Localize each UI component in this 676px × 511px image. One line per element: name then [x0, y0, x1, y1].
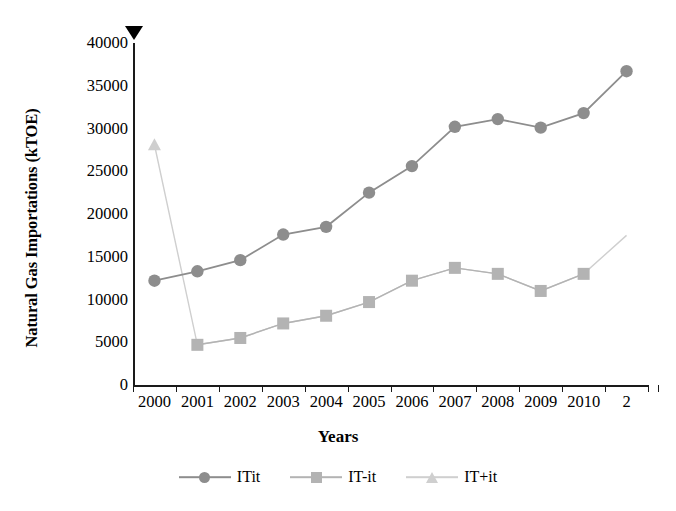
y-axis-tick-label: 35000 [50, 78, 128, 95]
data-point-marker [320, 310, 332, 322]
legend-item-ITit[interactable]: IT+it [406, 468, 497, 486]
x-axis-tick [391, 385, 392, 392]
x-axis-tick [133, 385, 134, 392]
data-point-marker [148, 138, 161, 150]
chart-figure: Natural Gas Importations (kTOE) 40000350… [0, 0, 676, 511]
x-axis-tick-label: 2 [601, 392, 653, 413]
data-point-marker [406, 160, 418, 172]
y-axis-tick-label: 40000 [50, 35, 128, 52]
triangle-marker-icon [426, 472, 438, 483]
data-point-marker [363, 186, 375, 198]
series-ITit [148, 65, 632, 287]
data-point-marker [535, 285, 547, 297]
down-triangle-marker [125, 26, 143, 40]
y-axis-tick-label: 25000 [50, 163, 128, 180]
series-line [197, 268, 583, 345]
series-line [154, 71, 626, 280]
x-axis-tick [305, 385, 306, 392]
legend-marker [290, 470, 342, 484]
legend-marker [179, 470, 231, 484]
data-point-marker [535, 121, 547, 133]
data-point-marker [191, 265, 203, 277]
data-point-marker [449, 121, 461, 133]
data-point-marker [363, 296, 375, 308]
legend-label: ITit [237, 468, 260, 486]
data-point-marker [492, 268, 504, 280]
x-axis-tick [262, 385, 263, 392]
chart-legend: ITitIT-itIT+it [0, 468, 676, 486]
data-point-marker [577, 107, 589, 119]
x-axis-trailing-tick [658, 385, 659, 392]
data-point-marker [277, 228, 289, 240]
series-ITit [191, 262, 589, 351]
data-point-marker [277, 317, 289, 329]
legend-label: IT+it [464, 468, 497, 486]
series-ITit [148, 138, 627, 345]
y-axis-tick-label: 10000 [50, 292, 128, 309]
legend-item-ITit[interactable]: IT-it [290, 468, 376, 486]
x-axis-tick [433, 385, 434, 392]
square-marker-icon [311, 472, 322, 483]
x-axis-tick [648, 385, 649, 392]
legend-label: IT-it [348, 468, 376, 486]
data-point-marker [492, 113, 504, 125]
data-point-marker [620, 65, 632, 77]
data-point-marker [148, 274, 160, 286]
y-axis-title: Natural Gas Importations (kTOE) [22, 63, 42, 393]
x-axis-tick [348, 385, 349, 392]
x-axis-tick [176, 385, 177, 392]
x-axis-title: Years [0, 427, 676, 447]
circle-marker-icon [199, 472, 210, 483]
legend-item-ITit[interactable]: ITit [179, 468, 260, 486]
x-axis-tick [519, 385, 520, 392]
y-axis-tick-label: 15000 [50, 249, 128, 266]
data-point-marker [234, 254, 246, 266]
series-line [154, 145, 626, 345]
x-axis-tick [605, 385, 606, 392]
data-point-marker [449, 262, 461, 274]
legend-marker [406, 470, 458, 484]
data-point-marker [578, 268, 590, 280]
x-axis-tick [476, 385, 477, 392]
data-point-marker [320, 221, 332, 233]
y-axis-tick-label: 20000 [50, 206, 128, 223]
y-axis-tick-label: 5000 [50, 334, 128, 351]
x-axis-tick [219, 385, 220, 392]
plot-area [133, 43, 648, 385]
data-point-marker [234, 332, 246, 344]
x-axis-tick [562, 385, 563, 392]
y-axis-tick-label: 30000 [50, 121, 128, 138]
x-axis-tick-labels: 2000200120022003200420052006200720082009… [0, 392, 676, 416]
data-point-marker [191, 339, 203, 351]
data-point-marker [406, 275, 418, 287]
